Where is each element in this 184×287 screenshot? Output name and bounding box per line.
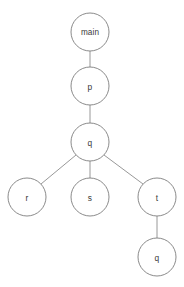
edge-q-t	[104, 155, 143, 184]
node-t[interactable]: t	[138, 178, 176, 216]
tree-graph: main p q r s t	[0, 0, 184, 287]
node-label-q2: q	[155, 253, 160, 263]
node-s[interactable]: s	[71, 178, 109, 216]
node-r[interactable]: r	[8, 178, 46, 216]
node-q[interactable]: q	[71, 123, 109, 161]
node-group: main p q r s t	[8, 13, 176, 276]
node-label-main: main	[81, 28, 99, 37]
node-p[interactable]: p	[71, 67, 109, 105]
diagram-canvas: main p q r s t	[0, 0, 184, 287]
edge-q-r	[41, 155, 76, 184]
node-q2[interactable]: q	[138, 238, 176, 276]
node-label-r: r	[26, 193, 29, 203]
node-main[interactable]: main	[71, 13, 109, 51]
node-label-p: p	[88, 82, 93, 92]
node-label-q: q	[88, 138, 93, 148]
node-label-s: s	[88, 193, 92, 203]
